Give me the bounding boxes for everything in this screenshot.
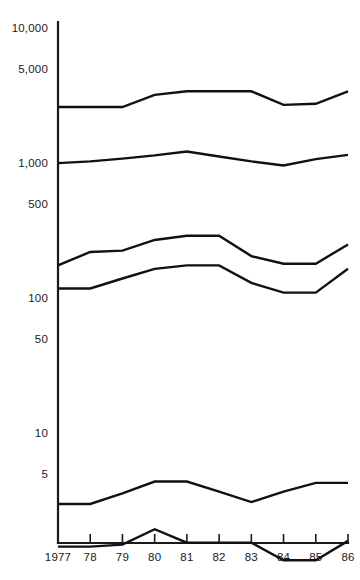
series-line-series-3 xyxy=(58,236,348,266)
y-tick-label: 500 xyxy=(28,198,48,210)
series-line-series-4 xyxy=(58,265,348,292)
y-axis-tick-labels: 10,0005,0001,00050010050105 xyxy=(12,22,48,480)
series-line-series-1 xyxy=(58,91,348,107)
y-tick-label: 5 xyxy=(41,468,48,480)
x-tick-label: 78 xyxy=(84,551,97,563)
series-lines xyxy=(58,91,348,560)
y-tick-label: 50 xyxy=(35,333,48,345)
y-tick-label: 10,000 xyxy=(12,22,48,34)
x-tick-label: 80 xyxy=(148,551,161,563)
series-line-series-2 xyxy=(58,151,348,165)
series-line-series-6 xyxy=(58,529,348,560)
line-chart: 10,0005,0001,00050010050105 197778798081… xyxy=(0,0,360,580)
y-tick-label: 5,000 xyxy=(18,63,48,75)
y-tick-label: 100 xyxy=(28,292,48,304)
x-tick-label: 82 xyxy=(213,551,226,563)
chart-container: 10,0005,0001,00050010050105 197778798081… xyxy=(0,0,360,580)
x-tick-label: 83 xyxy=(245,551,258,563)
x-tick-label: 86 xyxy=(341,551,354,563)
series-line-series-5 xyxy=(58,482,348,504)
y-tick-label: 1,000 xyxy=(18,157,48,169)
x-tick-label: 1977 xyxy=(45,551,71,563)
x-tick-label: 79 xyxy=(116,551,129,563)
y-tick-label: 10 xyxy=(35,427,48,439)
x-tick-label: 81 xyxy=(180,551,193,563)
